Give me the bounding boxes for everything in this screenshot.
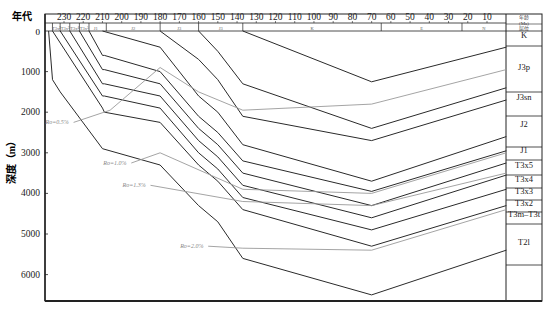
period-label: J3 xyxy=(219,26,224,31)
y-tick-label: 5000 xyxy=(21,229,40,239)
y-tick-label: 4000 xyxy=(21,188,40,198)
period-bar: T3x²T3x³T3x⁴T3x⁵J1J2J3J3KEN xyxy=(52,23,486,31)
x-tick-label: 80 xyxy=(348,12,358,22)
x-tick-label: 180 xyxy=(153,12,168,22)
burial-curve xyxy=(60,31,506,230)
ro-isoline xyxy=(208,210,506,251)
x-tick-label: 60 xyxy=(386,12,396,22)
legend-layer-label: J3p xyxy=(518,62,530,72)
ro-labels: Ro=0.5%Ro=1.0%Ro=1.3%Ro=2.0% xyxy=(45,119,204,249)
y-tick-label: 3000 xyxy=(21,148,40,158)
legend-layer-label: T3x3 xyxy=(515,186,533,196)
x-tick-label: 170 xyxy=(172,12,187,22)
burial-history-chart: 2302202102001901801701601501401301201101… xyxy=(0,0,548,312)
y-axis-ticks: 100020003000400050006000 xyxy=(21,67,48,280)
x-tick-label: 150 xyxy=(211,12,226,22)
period-label: J1 xyxy=(94,26,98,31)
legend-layer-label: K xyxy=(521,30,528,40)
x-tick-label: 120 xyxy=(268,12,283,22)
ro-isoline xyxy=(74,68,507,123)
period-label: E xyxy=(420,26,423,31)
legend-layer-label: T3x4 xyxy=(515,174,534,184)
ro-isoline xyxy=(131,153,506,194)
svg-text:年龄: 年龄 xyxy=(519,14,529,21)
legend-layer-label: T2l xyxy=(518,237,530,247)
x-tick-label: 190 xyxy=(134,12,149,22)
period-label: J2 xyxy=(131,26,135,31)
x-tick-label: 210 xyxy=(95,12,110,22)
x-axis-ticks: 2302202102001901801701601501401301201101… xyxy=(57,12,492,23)
burial-curve xyxy=(79,31,506,206)
burial-curve xyxy=(160,31,506,141)
x-tick-label: 200 xyxy=(115,12,130,22)
period-label: T3x⁴ xyxy=(70,26,79,31)
ro-label: Ro=0.5% xyxy=(45,119,69,125)
legend-layer-label: T3x5 xyxy=(515,160,533,170)
y-axis-title: 深度（m） xyxy=(5,136,17,184)
period-label: K xyxy=(310,26,314,31)
burial-curve xyxy=(89,31,506,191)
y-tick-label: 6000 xyxy=(21,270,40,280)
x-tick-label: 50 xyxy=(405,12,415,22)
ro-label: Ro=2.0% xyxy=(179,243,203,249)
x-tick-label: 100 xyxy=(307,12,322,22)
legend-layer-label: T3m–T3t xyxy=(508,209,541,219)
legend-layers: KJ3pJ3snJ2J1T3x5T3x4T3x3T3x2T3m–T3tT2l xyxy=(506,30,542,265)
x-tick-label: 140 xyxy=(230,12,245,22)
ro-label: Ro=1.3% xyxy=(122,182,146,188)
x-tick-label: 130 xyxy=(249,12,264,22)
y-tick-label: 2000 xyxy=(21,107,40,117)
x-tick-label: 160 xyxy=(191,12,206,22)
x-axis-title: 年代 xyxy=(12,10,32,22)
legend-layer-label: J3sn xyxy=(516,92,532,102)
y-tick-label: 1000 xyxy=(21,67,40,77)
period-label: N xyxy=(482,26,486,31)
burial-curve xyxy=(243,31,506,82)
period-label: T3x⁵ xyxy=(80,26,89,31)
period-label: T3x³ xyxy=(61,26,70,31)
x-tick-label: 30 xyxy=(444,12,454,22)
legend-layer-label: J2 xyxy=(520,119,528,129)
x-tick-label: 90 xyxy=(328,12,338,22)
x-tick-label: 70 xyxy=(367,12,377,22)
x-tick-label: 20 xyxy=(463,12,473,22)
x-tick-label: 110 xyxy=(288,12,302,22)
x-tick-label: 220 xyxy=(76,12,91,22)
ro-isoline xyxy=(151,173,507,206)
x-tick-label: 40 xyxy=(425,12,435,22)
legend-layer-label: J1 xyxy=(520,145,528,155)
legend-layer-label: T3x2 xyxy=(515,198,533,208)
burial-curve xyxy=(53,31,507,246)
ro-label: Ro=1.0% xyxy=(102,160,126,166)
y-zero-label: 0 xyxy=(36,27,41,37)
x-tick-label: 230 xyxy=(57,12,72,22)
period-label: J3 xyxy=(177,26,182,31)
x-tick-label: 10 xyxy=(482,12,492,22)
